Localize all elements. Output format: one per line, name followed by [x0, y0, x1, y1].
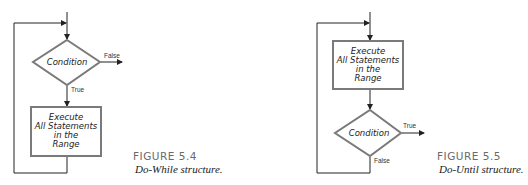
figure-5-4-caption: Do-While structure.	[135, 163, 223, 175]
process-line-4: Range	[354, 73, 381, 83]
figure-5-5-caption: Do-Until structure.	[439, 163, 524, 175]
figure-5-5-number: FIGURE 5.5	[437, 150, 501, 162]
figure-5-4-number: FIGURE 5.4	[133, 150, 197, 162]
true-label: True	[71, 86, 85, 93]
process-line-4: Range	[52, 139, 79, 149]
do-until-flowchart: Execute All Statements in the Range Cond…	[317, 12, 424, 173]
true-label: True	[403, 122, 417, 129]
decision-label: Condition	[349, 128, 390, 138]
loop-bottom-line	[14, 157, 67, 173]
decision-label: Condition	[47, 57, 88, 67]
false-label: False	[374, 157, 390, 164]
false-label: False	[104, 52, 120, 59]
do-while-flowchart: Condition False True Execute All Stateme…	[14, 12, 122, 173]
loop-bottom-line	[317, 157, 370, 173]
